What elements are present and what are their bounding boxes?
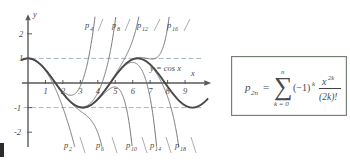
y-axis-arrow <box>25 14 30 20</box>
formula-sum-lower-limit: k = 0 <box>274 100 289 108</box>
x-tick-label: 3 <box>77 86 82 96</box>
x-tick-label: 9 <box>183 86 188 96</box>
x-axis-arrow <box>204 80 211 85</box>
axis-lines <box>22 14 211 147</box>
curve-label-p14: p <box>149 140 154 150</box>
curve-label-subscript-10: 10 <box>131 146 137 152</box>
curve-label-p6: p <box>95 140 100 150</box>
curve-label-subscript-16: 16 <box>172 26 178 32</box>
curve-label-subscript-14: 14 <box>155 146 161 152</box>
curve-label-subscript-8: 8 <box>117 26 120 32</box>
formula-sign-term: (−1) <box>293 82 310 94</box>
curve-label-subscript-12: 12 <box>142 26 148 32</box>
formula-lhs-base: p <box>244 81 251 93</box>
label-leader-line <box>98 19 103 31</box>
curve-label-p4: p <box>84 20 89 30</box>
curve-label-p12: p <box>136 20 141 30</box>
taylor-polynomial-figure: 12345678921-1-2 x y y = cos x p4p8p12p16… <box>0 0 350 163</box>
formula-box: p 2n = ∑ n k = 0 (−1) k x 2k (2k)! <box>231 56 347 116</box>
formula-equals: = <box>263 81 269 93</box>
label-leader-line <box>191 137 196 153</box>
label-leader-line <box>166 137 171 153</box>
y-tick-label: -1 <box>14 103 21 113</box>
formula-numerator-exponent: 2k <box>328 74 334 81</box>
curve-name-labels: p4p8p12p16p2p6p10p14p18 <box>63 19 196 153</box>
x-tick-label: 1 <box>43 86 47 96</box>
curve-label-p10: p <box>125 140 130 150</box>
curve-label-subscript-4: 4 <box>90 26 93 32</box>
corner-artifact <box>0 143 4 157</box>
formula-lhs-subscript: 2n <box>251 89 259 97</box>
x-tick-label: 5 <box>113 86 117 96</box>
x-axis-label: x <box>190 68 195 78</box>
curve-p2 <box>22 58 75 146</box>
formula-summation-glyph: ∑ <box>274 72 293 101</box>
curve-p14 <box>22 58 157 146</box>
x-tick-label: 4 <box>96 86 101 96</box>
curve-p10 <box>22 58 132 145</box>
y-tick-label: 2 <box>19 29 24 39</box>
formula-denominator: (2k)! <box>319 92 337 103</box>
label-leader-line <box>184 19 190 31</box>
x-tick-label: 7 <box>148 86 153 96</box>
label-leader-line <box>112 137 117 153</box>
curve-label-p8: p <box>111 20 116 30</box>
cosine-annotation: y = cos x <box>149 63 181 73</box>
x-tick-label: 6 <box>131 86 136 96</box>
label-leader-line <box>80 137 85 153</box>
curve-label-p2: p <box>63 140 68 150</box>
y-tick-label: -2 <box>14 127 22 137</box>
curve-p6 <box>22 58 102 146</box>
y-axis-label: y <box>32 9 37 19</box>
label-leader-line <box>154 19 160 31</box>
curve-label-p18: p <box>174 140 179 150</box>
curve-label-subscript-18: 18 <box>180 146 186 152</box>
label-leader-line <box>125 19 130 31</box>
curve-label-subscript-6: 6 <box>101 146 104 152</box>
formula-numerator-base: x <box>321 76 327 87</box>
x-tick-label: 8 <box>166 86 171 96</box>
x-tick-label: 2 <box>61 86 66 96</box>
y-tick-label: 1 <box>19 53 23 63</box>
curve-label-subscript-2: 2 <box>69 146 72 152</box>
label-leader-line <box>142 137 147 153</box>
formula-sum-upper-limit: n <box>281 68 285 76</box>
curve-label-p16: p <box>166 20 171 30</box>
